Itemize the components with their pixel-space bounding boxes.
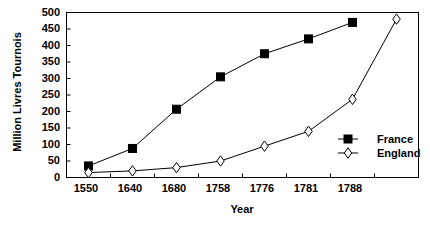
data-point-england [217, 156, 224, 166]
data-point-england [261, 141, 268, 151]
chart-legend [338, 135, 358, 158]
plot-frame [67, 13, 419, 178]
data-point-england [393, 14, 400, 24]
legend-marker-france [344, 135, 352, 143]
data-point-england [129, 166, 136, 176]
legend-label-england: England [377, 147, 420, 159]
legend-marker-england [344, 148, 351, 158]
data-point-france [173, 105, 181, 113]
plot-area [0, 0, 430, 227]
data-point-england [173, 162, 180, 172]
y-axis-ticks [67, 13, 71, 178]
legend-label-france: France [377, 133, 413, 145]
data-point-england [349, 94, 356, 104]
data-point-england [305, 126, 312, 136]
data-point-france [217, 73, 225, 81]
x-axis-ticks [111, 174, 375, 178]
data-point-france [129, 144, 137, 152]
data-point-france [349, 18, 357, 26]
data-point-france [261, 50, 269, 58]
chart-figure: Million Livres Tournois 500 450 400 350 … [0, 0, 430, 227]
data-point-france [305, 35, 313, 43]
